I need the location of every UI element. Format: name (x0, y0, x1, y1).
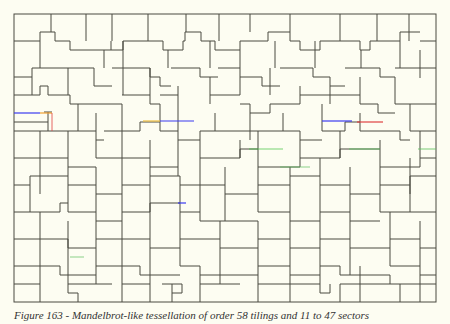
tiling-diagram (0, 0, 450, 305)
tiling-figure (0, 0, 450, 305)
figure-caption: Figure 163 - Mandelbrot-like tessellatio… (14, 309, 369, 321)
tile-edges (14, 14, 436, 302)
